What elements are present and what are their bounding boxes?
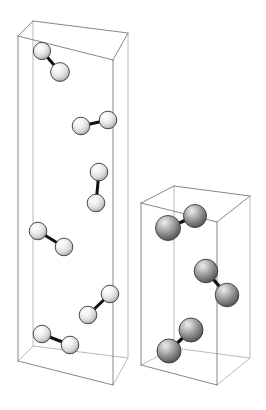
molecule-L6-atom-a — [33, 325, 51, 343]
molecule-R3-atom-a — [157, 339, 181, 363]
molecule-L2-atom-b — [99, 111, 117, 129]
molecule-L3-atom-b — [87, 194, 105, 212]
molecule-L4-atom-b — [55, 238, 73, 256]
molecule-R3-atom-b — [179, 318, 203, 342]
molecule-L5-atom-a — [79, 306, 97, 324]
molecule-L2-atom-a — [72, 117, 90, 135]
structure-canvas — [0, 0, 266, 410]
crystal-structure-figure — [0, 0, 266, 410]
molecule-L1-atom-b — [51, 63, 70, 82]
molecule-R1-atom-a — [156, 216, 181, 241]
canvas-background — [0, 0, 266, 410]
molecule-L5-atom-b — [101, 285, 119, 303]
molecule-L6-atom-b — [61, 336, 79, 354]
molecule-L4-atom-a — [29, 222, 47, 240]
molecule-L1-atom-a — [33, 42, 50, 59]
molecule-R2-atom-b — [215, 283, 239, 307]
molecule-R2-atom-a — [194, 259, 218, 283]
molecule-L3-atom-a — [90, 163, 108, 181]
molecule-R1-atom-b — [184, 205, 207, 228]
